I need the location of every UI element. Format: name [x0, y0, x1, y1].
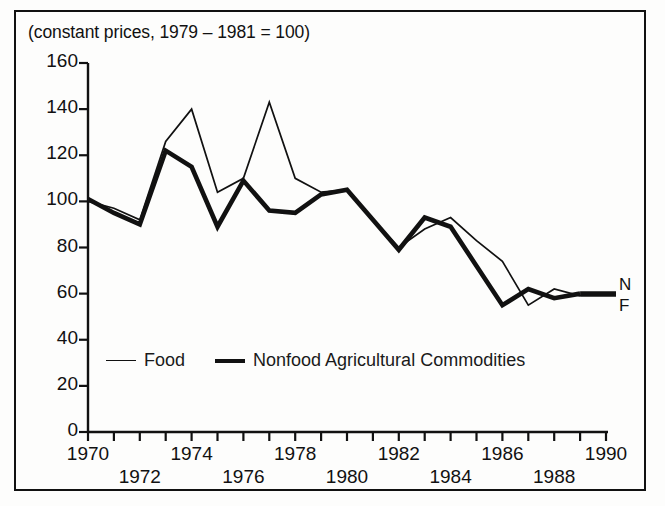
- x-axis-tick-label: 1982: [374, 443, 424, 465]
- y-axis-tick-label: 100: [20, 188, 78, 210]
- x-axis-tick-label: 1972: [115, 466, 165, 488]
- thin-line-swatch-icon: [106, 360, 136, 361]
- y-axis-tick-label: 120: [20, 142, 78, 164]
- y-axis-tick-label: 80: [20, 235, 78, 257]
- y-axis-tick-label: 160: [20, 50, 78, 72]
- x-axis-tick-label: 1980: [322, 466, 372, 488]
- series-line-nonfood: [88, 151, 580, 306]
- x-axis-tick-label: 1986: [477, 443, 527, 465]
- legend-entry-nonfood: Nonfood Agricultural Commodities: [215, 350, 525, 371]
- x-axis-tick-label: 1984: [426, 466, 476, 488]
- y-axis-tick-label: 40: [20, 327, 78, 349]
- endpoint-label-food: F: [619, 296, 629, 316]
- legend-entry-food: Food: [106, 350, 185, 371]
- chart-legend: Food Nonfood Agricultural Commodities: [106, 350, 525, 371]
- x-axis-tick-label: 1976: [218, 466, 268, 488]
- legend-label-food: Food: [144, 350, 185, 371]
- y-axis-ticks: [79, 63, 88, 432]
- x-axis-tick-label: 1988: [529, 466, 579, 488]
- x-axis-tick-label: 1990: [581, 443, 631, 465]
- data-series: [88, 102, 616, 305]
- plot-canvas: [0, 0, 665, 506]
- y-axis-tick-label: 60: [20, 281, 78, 303]
- x-axis-tick-label: 1974: [167, 443, 217, 465]
- x-axis-tick-label: 1970: [63, 443, 113, 465]
- x-axis-ticks: [88, 432, 606, 441]
- endpoint-label-nonfood: N: [619, 275, 631, 295]
- y-axis-tick-label: 20: [20, 373, 78, 395]
- y-axis-tick-label: 0: [20, 419, 78, 441]
- thick-line-swatch-icon: [215, 359, 245, 363]
- series-line-food: [88, 102, 580, 305]
- y-axis-tick-label: 140: [20, 96, 78, 118]
- chart-figure: (constant prices, 1979 – 1981 = 100) 160…: [0, 0, 665, 506]
- x-axis-tick-label: 1978: [270, 443, 320, 465]
- legend-label-nonfood: Nonfood Agricultural Commodities: [253, 350, 525, 371]
- axis-lines: [88, 63, 608, 432]
